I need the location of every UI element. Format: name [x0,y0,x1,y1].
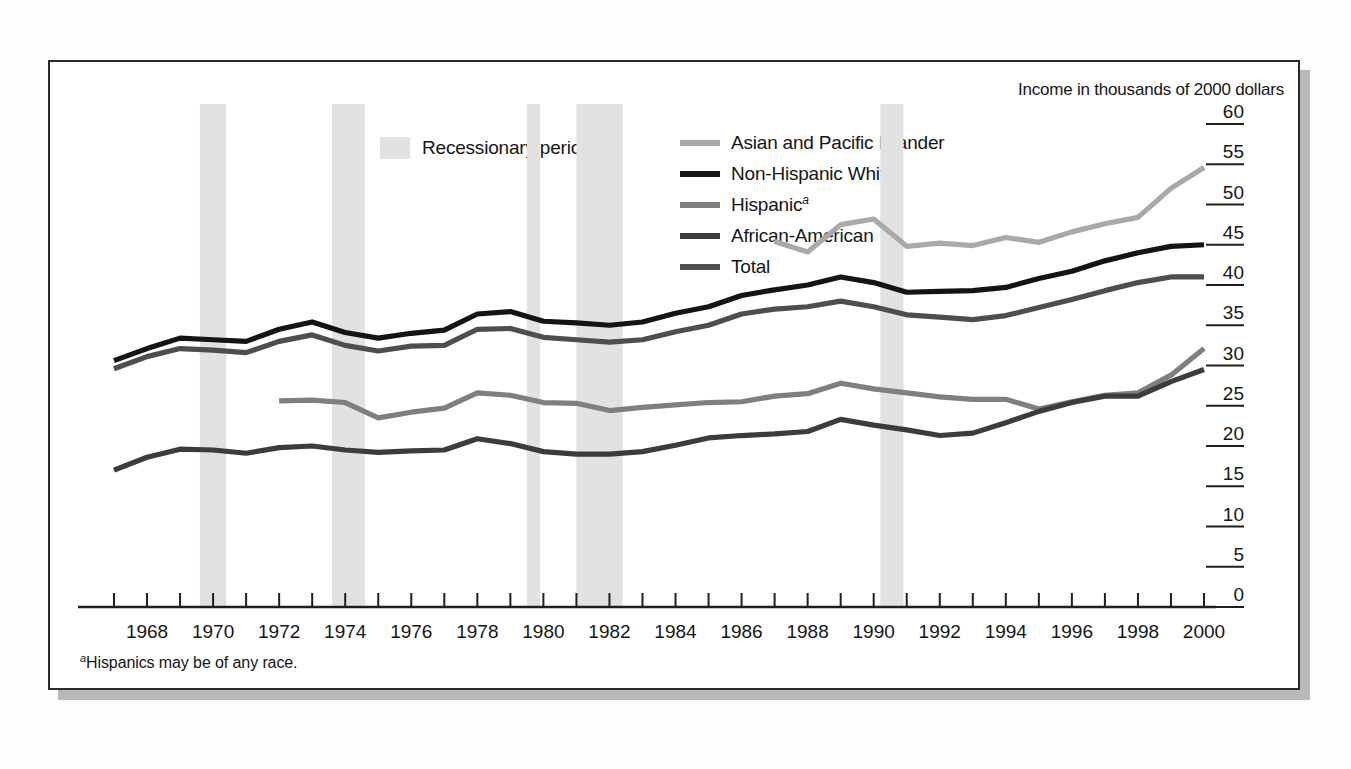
y-tick-label-15: 15 [1210,463,1244,485]
y-tick-label-60: 60 [1210,101,1244,123]
series-line-african-american [114,370,1204,471]
recession-band-1 [332,104,365,607]
y-tick-label-20: 20 [1210,423,1244,445]
figure-frame: Income in thousands of 2000 dollars Rece… [48,60,1300,690]
y-tick-label-50: 50 [1210,182,1244,204]
x-tick-label-1992: 1992 [919,621,961,643]
y-tick-label-30: 30 [1210,343,1244,365]
x-tick-label-1978: 1978 [456,621,498,643]
plot-area: 051015202530354045505560 196819701972197… [78,82,1244,668]
x-tick-label-1988: 1988 [786,621,828,643]
recession-band-2 [527,104,540,607]
x-tick-label-1990: 1990 [853,621,895,643]
series-line-hispanic [279,349,1204,418]
y-tick-label-35: 35 [1210,302,1244,324]
x-tick-label-1970: 1970 [192,621,234,643]
x-tick-label-1974: 1974 [324,621,366,643]
x-tick-label-1998: 1998 [1117,621,1159,643]
y-tick-label-25: 25 [1210,383,1244,405]
recession-bands [200,104,904,607]
recession-band-3 [576,104,622,607]
line-chart-svg [78,82,1244,668]
x-tick-label-1968: 1968 [126,621,168,643]
y-tick-label-5: 5 [1210,544,1244,566]
x-tick-label-1972: 1972 [258,621,300,643]
x-tick-label-1982: 1982 [588,621,630,643]
x-tick-label-2000: 2000 [1183,621,1225,643]
x-tick-label-1984: 1984 [654,621,696,643]
series-line-asian-and-pacific-islander [775,167,1204,252]
y-tick-label-40: 40 [1210,262,1244,284]
y-tick-label-55: 55 [1210,141,1244,163]
x-tick-label-1980: 1980 [522,621,564,643]
x-tick-label-1986: 1986 [720,621,762,643]
y-tick-label-45: 45 [1210,222,1244,244]
x-tick-label-1996: 1996 [1051,621,1093,643]
series-lines [114,167,1204,470]
x-tick-label-1976: 1976 [390,621,432,643]
recession-band-0 [200,104,226,607]
footnote-text: Hispanics may be of any race. [86,654,297,671]
x-tick-label-1994: 1994 [985,621,1027,643]
x-axis [78,593,1216,607]
series-line-total [114,277,1204,369]
y-tick-label-0: 0 [1210,584,1244,606]
recession-band-4 [880,104,903,607]
y-tick-label-10: 10 [1210,504,1244,526]
footnote: aHispanics may be of any race. [80,652,297,672]
